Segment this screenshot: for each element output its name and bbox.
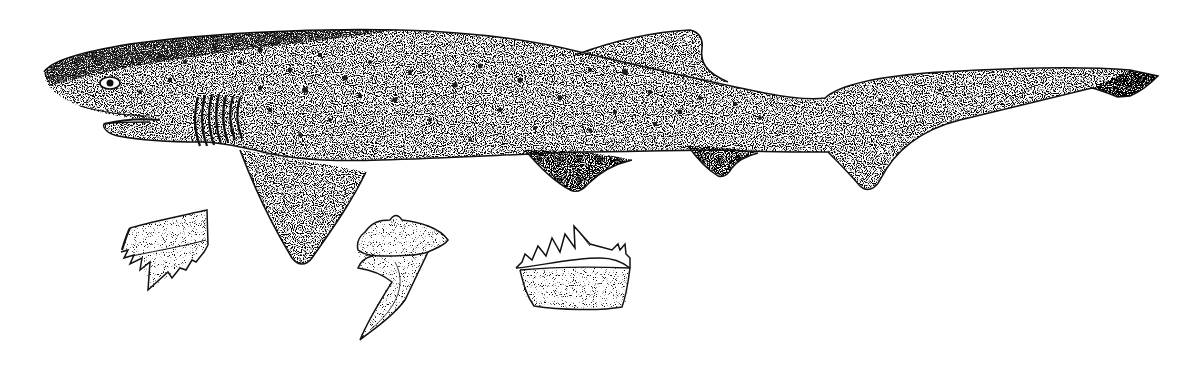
tooth-lower-comb	[516, 226, 630, 310]
shark-illustration	[0, 0, 1193, 365]
shark-body-group	[44, 30, 1158, 264]
pelvic-fin	[525, 150, 632, 191]
illustration-canvas: Broadnose sevengill shark	[0, 0, 1193, 365]
eye	[100, 77, 120, 89]
tooth-lateral	[357, 216, 448, 341]
tooth-upper	[120, 210, 208, 290]
